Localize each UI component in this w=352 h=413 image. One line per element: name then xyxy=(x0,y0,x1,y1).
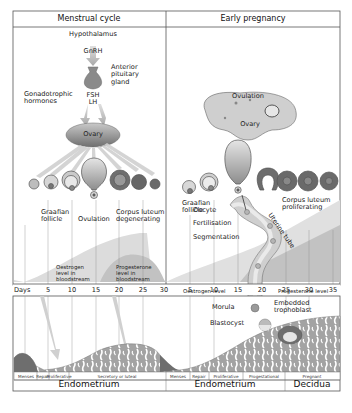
day-tick: 5 xyxy=(188,287,192,294)
day-tick: 30 xyxy=(305,287,313,294)
phase-menses: Menses xyxy=(18,374,34,379)
label-fertilisation: Fertilisation xyxy=(193,220,231,227)
day-tick: 10 xyxy=(210,287,218,294)
day-tick: 30 xyxy=(160,287,168,294)
day-tick: 15 xyxy=(234,287,242,294)
day-tick: 20 xyxy=(258,287,266,294)
label-hypothalamus: Hypothalamus xyxy=(69,31,117,38)
phase-progestational: Progestational xyxy=(249,374,279,379)
phase-secretory: Secretory or luteal xyxy=(98,374,137,379)
day-tick: 25 xyxy=(282,287,290,294)
label-gonadotrophic-hormones: Gonadotrophic hormones xyxy=(24,91,73,106)
label-ovary-right: Ovary xyxy=(240,121,260,128)
day-tick: 25 xyxy=(139,287,147,294)
day-tick: 10 xyxy=(68,287,76,294)
days-axis-title: Days xyxy=(14,287,30,294)
day-tick: 35 xyxy=(329,287,337,294)
footer-decidua: Decidua xyxy=(294,381,331,388)
label-oestrogen-left: Oestrogen level in bloodstream xyxy=(56,264,90,282)
phase-pregnant: Pregnant xyxy=(303,374,322,379)
phase-repair-right: Repair xyxy=(192,374,205,379)
label-graafian-follicle-left: Graafian follicle xyxy=(41,209,69,224)
label-corpus-luteum-proliferating: Corpus luteum proliferating xyxy=(282,197,331,212)
phase-menses-right: Menses xyxy=(170,374,186,379)
day-tick: 15 xyxy=(92,287,100,294)
footer-endometrium-left: Endometrium xyxy=(58,381,119,388)
panel-title-early-pregnancy: Early pregnancy xyxy=(220,15,285,22)
label-ovulation-right: Ovulation xyxy=(232,93,264,100)
label-oocyte: Oocyte xyxy=(193,207,216,214)
panel-title-menstrual-cycle: Menstrual cycle xyxy=(58,15,121,22)
day-tick: 20 xyxy=(115,287,123,294)
label-embedded-trophoblast: Embedded trophoblast xyxy=(274,300,312,315)
footer-endometrium-right: Endometrium xyxy=(194,381,255,388)
label-morula: Morula xyxy=(212,304,235,311)
phase-proliferative: Proliferative xyxy=(46,374,71,379)
label-segmentation: Segmentation xyxy=(193,234,239,241)
label-gnrh: GnRH xyxy=(84,48,103,55)
label-corpus-luteum-degenerating: Corpus luteum degenerating xyxy=(116,209,165,224)
label-progesterone-left: Progesterone level in bloodstream xyxy=(116,264,152,282)
label-anterior-pituitary: Anterior pituitary gland xyxy=(111,64,139,86)
label-lh: LH xyxy=(89,99,98,106)
morula xyxy=(251,304,259,312)
phase-proliferative-right: Proliferative xyxy=(213,374,238,379)
label-ovulation-left: Ovulation xyxy=(78,216,110,223)
label-ovary-left: Ovary xyxy=(83,131,103,138)
day-tick: 5 xyxy=(46,287,50,294)
label-blastocyst: Blastocyst xyxy=(210,320,244,327)
